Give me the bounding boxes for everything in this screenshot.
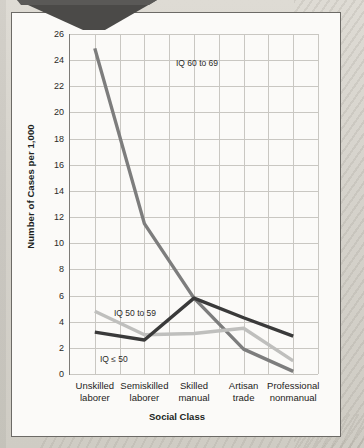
gridline-horizontal [70, 374, 318, 375]
x-tick-label: Unskilledlaborer [76, 380, 115, 403]
y-tick-label: 18 [54, 134, 64, 144]
chart-figure: Number of Cases per 1,000 Social Class 0… [11, 12, 341, 437]
x-tick-label: Semiskilledlaborer [120, 380, 168, 403]
x-tick-label: Artisantrade [229, 380, 259, 403]
chart-area: Number of Cases per 1,000 Social Class 0… [12, 13, 340, 436]
y-tick-label: 0 [59, 369, 64, 379]
y-tick-label: 4 [59, 317, 64, 327]
y-tick-label: 8 [59, 264, 64, 274]
series-lines [70, 34, 318, 374]
y-tick-label: 10 [54, 238, 64, 248]
x-tick-label-line: Artisan [229, 380, 259, 392]
x-tick-label-line: laborer [120, 392, 168, 404]
x-tick-label-line: trade [229, 392, 259, 404]
y-tick-label: 12 [54, 212, 64, 222]
series-annotation-label: IQ 60 to 69 [176, 58, 218, 68]
y-tick-label: 14 [54, 186, 64, 196]
x-tick-label-line: Semiskilled [120, 380, 168, 392]
series-line [95, 48, 293, 371]
y-tick-label: 20 [54, 107, 64, 117]
y-tick-label: 16 [54, 160, 64, 170]
y-tick-label: 22 [54, 81, 64, 91]
x-tick-label: Professionalnonmanual [267, 380, 319, 403]
series-annotation-label: IQ 50 to 59 [114, 308, 156, 318]
x-tick-label-line: Skilled [178, 380, 209, 392]
series-annotation-label: IQ ≤ 50 [100, 354, 128, 364]
gridline-vertical [318, 34, 319, 374]
y-tick-label: 6 [59, 291, 64, 301]
callout-tab-icon [17, 0, 157, 30]
y-tick-label: 24 [54, 55, 64, 65]
x-tick-label-line: manual [178, 392, 209, 404]
x-tick-label-line: Professional [267, 380, 319, 392]
x-tick-label-line: Unskilled [76, 380, 115, 392]
x-tick-label: Skilledmanual [178, 380, 209, 403]
y-tick-label: 26 [54, 29, 64, 39]
x-tick-label-line: nonmanual [267, 392, 319, 404]
y-axis-title: Number of Cases per 1,000 [25, 107, 36, 267]
plot-region: 02468101214161820222426 Unskilledlaborer… [69, 34, 318, 375]
y-tick-label: 2 [59, 343, 64, 353]
x-tick-label-line: laborer [76, 392, 115, 404]
x-axis-title: Social Class [12, 411, 342, 422]
